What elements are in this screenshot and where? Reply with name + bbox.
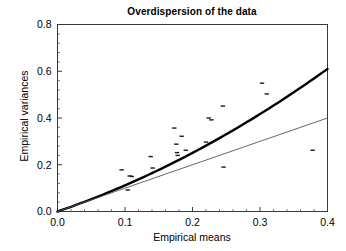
x-tick-label: 0.0: [50, 216, 65, 228]
x-tick-label: 0.3: [253, 216, 268, 228]
axis-tick-labels: 0.00.10.20.30.40.00.20.40.60.8: [37, 18, 335, 227]
y-tick-label: 0.2: [37, 159, 52, 171]
series-poisson-reference: [58, 118, 328, 212]
y-tick-label: 0.6: [37, 65, 52, 77]
chart-figure: Overdispersion of the data Empirical var…: [0, 0, 346, 251]
y-tick-label: 0.8: [37, 18, 52, 30]
series-overdispersed-fit: [58, 69, 328, 212]
x-tick-label: 0.4: [320, 216, 335, 228]
axes-frame: [58, 25, 328, 212]
y-tick-label: 0.4: [37, 112, 52, 124]
fit-lines: [58, 69, 328, 212]
x-tick-label: 0.1: [118, 216, 133, 228]
x-tick-label: 0.2: [185, 216, 200, 228]
axis-ticks: [58, 25, 328, 212]
plot-canvas: 0.00.10.20.30.40.00.20.40.60.8: [0, 0, 346, 251]
y-tick-label: 0.0: [37, 205, 52, 217]
